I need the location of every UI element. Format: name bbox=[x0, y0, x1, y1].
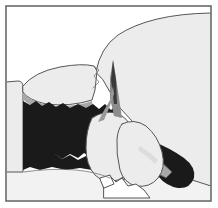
region-left-vertical-strip bbox=[6, 81, 23, 172]
cross-section-illustration bbox=[0, 0, 218, 208]
figure-root bbox=[0, 0, 218, 208]
